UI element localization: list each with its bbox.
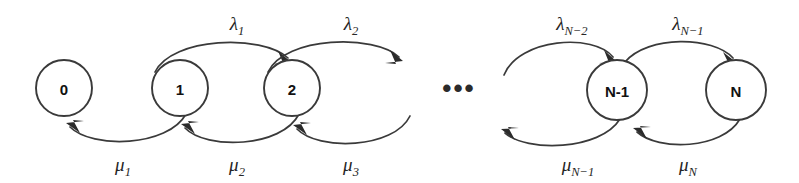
arc-mu-3 [293, 116, 410, 144]
lambda-1-base: λ [229, 13, 238, 34]
arc-mu-3-path [297, 116, 410, 144]
rate-label-mu-2: μ2 [228, 154, 245, 179]
forward-rate-labels: λ1 λ2 λN−2 λN−1 [229, 13, 704, 38]
arc-mu-n-1 [501, 119, 620, 146]
rate-label-lambda-n-minus-2: λN−2 [555, 13, 587, 38]
arc-lambda-n-1 [625, 42, 737, 66]
state-label-n: N [731, 83, 742, 100]
mu-3-base: μ [342, 154, 353, 175]
mu-n-base: μ [678, 154, 689, 175]
markov-chain-diagram: 0 1 2 N-1 N ••• λ1 [0, 0, 799, 183]
lambda-1-sub: 1 [238, 24, 244, 38]
backward-transition-arcs [66, 114, 740, 146]
arc-mu-n-1-path [505, 119, 620, 146]
rate-label-mu-n-minus-1: μN−1 [561, 154, 595, 179]
forward-transition-arcs [155, 42, 737, 75]
arc-lambda-n-1-path [625, 42, 733, 62]
state-label-0: 0 [60, 81, 68, 98]
state-node-2[interactable]: 2 [264, 60, 320, 116]
mu-n-sub: N [688, 165, 698, 179]
lambda-2-sub: 2 [352, 24, 358, 38]
mu-2-sub: 2 [239, 165, 245, 179]
lambda-n-minus-2-sub: N−2 [564, 24, 588, 38]
lambda-2-base: λ [343, 13, 352, 34]
arc-mu-2 [181, 114, 299, 142]
state-node-1[interactable]: 1 [152, 60, 208, 116]
rate-label-lambda-1: λ1 [229, 13, 244, 38]
rate-label-lambda-n-minus-1: λN−1 [671, 13, 703, 38]
rate-label-mu-3: μ3 [342, 154, 359, 179]
lambda-n-minus-1-base: λ [671, 13, 680, 34]
mu-n-minus-1-base: μ [561, 154, 572, 175]
mu-2-base: μ [228, 154, 239, 175]
arc-mu-2-path [185, 114, 299, 142]
lambda-n-minus-2-base: λ [555, 13, 564, 34]
state-label-2: 2 [288, 81, 296, 98]
mu-1-base: μ [114, 154, 125, 175]
rate-label-lambda-2: λ2 [343, 13, 358, 38]
mu-n-minus-1-sub: N−1 [570, 165, 594, 179]
arc-mu-n [633, 119, 740, 145]
state-label-1: 1 [176, 81, 184, 98]
arrowhead-mu-n [633, 126, 651, 139]
arc-mu-1-path [70, 114, 186, 142]
state-label-n-minus-1: N-1 [605, 83, 629, 100]
state-nodes: 0 1 2 N-1 N [36, 60, 766, 120]
lambda-n-minus-1-sub: N−1 [680, 24, 704, 38]
arc-mu-1 [66, 114, 186, 142]
arrowhead-mu-n-1 [501, 127, 519, 140]
ellipsis-indicator: ••• [442, 73, 475, 103]
mu-3-sub: 3 [352, 165, 359, 179]
state-node-n[interactable]: N [706, 60, 766, 120]
backward-rate-labels: μ1 μ2 μ3 μN−1 μN [114, 154, 698, 179]
mu-1-sub: 1 [125, 165, 131, 179]
rate-label-mu-1: μ1 [114, 154, 131, 179]
diagram-canvas: 0 1 2 N-1 N ••• λ1 [0, 0, 799, 183]
arc-mu-n-path [637, 119, 740, 145]
rate-label-mu-n: μN [678, 154, 698, 179]
state-node-n-minus-1[interactable]: N-1 [587, 60, 647, 120]
state-node-0[interactable]: 0 [36, 60, 92, 116]
